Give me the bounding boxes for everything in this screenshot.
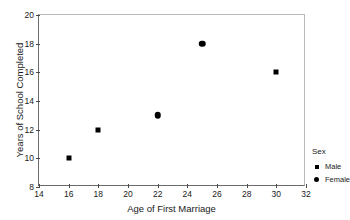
y-tick-mark xyxy=(36,15,40,16)
x-tick-mark xyxy=(69,184,70,188)
data-point-male xyxy=(66,156,71,161)
y-tick-mark xyxy=(36,72,40,73)
x-tick-mark xyxy=(217,184,218,188)
y-tick-mark xyxy=(36,158,40,159)
x-tick-label: 14 xyxy=(34,190,43,199)
data-point-female xyxy=(154,112,161,119)
legend-item-label: Male xyxy=(325,161,341,172)
x-tick-label: 20 xyxy=(123,190,132,199)
circle-marker-icon xyxy=(312,177,321,182)
data-point-female xyxy=(199,40,206,47)
x-tick-mark xyxy=(187,184,188,188)
x-tick-label: 24 xyxy=(183,190,192,199)
y-tick-mark xyxy=(36,130,40,131)
y-tick-mark xyxy=(36,101,40,102)
marker-glyph xyxy=(314,177,319,182)
x-tick-label: 28 xyxy=(242,190,251,199)
y-axis-title: Years of School Completed xyxy=(13,14,26,186)
x-axis-title: Age of First Marriage xyxy=(38,203,305,214)
legend-item-female[interactable]: Female xyxy=(312,174,350,185)
legend: Sex MaleFemale xyxy=(312,147,350,187)
legend-item-male[interactable]: Male xyxy=(312,161,350,172)
x-tick-mark xyxy=(306,184,307,188)
x-tick-mark xyxy=(158,184,159,188)
square-marker-icon xyxy=(312,165,321,169)
x-tick-mark xyxy=(39,184,40,188)
x-tick-mark xyxy=(247,184,248,188)
legend-title: Sex xyxy=(312,147,350,157)
x-tick-mark xyxy=(276,184,277,188)
x-tick-label: 16 xyxy=(64,190,73,199)
data-point-male xyxy=(96,127,101,132)
legend-entries: MaleFemale xyxy=(312,161,350,185)
legend-item-label: Female xyxy=(325,174,350,185)
x-tick-label: 26 xyxy=(212,190,221,199)
x-tick-label: 32 xyxy=(301,190,310,199)
marker-glyph xyxy=(315,165,319,169)
x-tick-label: 30 xyxy=(272,190,281,199)
x-tick-mark xyxy=(98,184,99,188)
x-tick-label: 22 xyxy=(153,190,162,199)
plot-area: 8101214161820 14161820222426283032 xyxy=(38,14,305,186)
y-tick-mark xyxy=(36,44,40,45)
x-tick-label: 18 xyxy=(94,190,103,199)
x-tick-mark xyxy=(128,184,129,188)
data-point-male xyxy=(274,70,279,75)
